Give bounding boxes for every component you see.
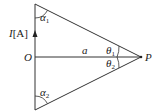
theta1-label: θ1: [106, 44, 115, 58]
diagram-canvas: I[A] O a P α1 α2 θ1 θ2: [0, 0, 159, 112]
distance-label: a: [82, 44, 88, 56]
upper-line: [35, 4, 141, 57]
point-p: [140, 56, 143, 59]
origin-label: O: [24, 51, 32, 63]
current-arrow-icon: [33, 30, 38, 37]
alpha2-label: α2: [40, 86, 50, 100]
theta2-label: θ2: [106, 57, 115, 71]
point-label: P: [144, 51, 152, 63]
current-label: I[A]: [8, 27, 28, 39]
alpha1-label: α1: [40, 11, 50, 25]
lower-line: [35, 57, 141, 110]
